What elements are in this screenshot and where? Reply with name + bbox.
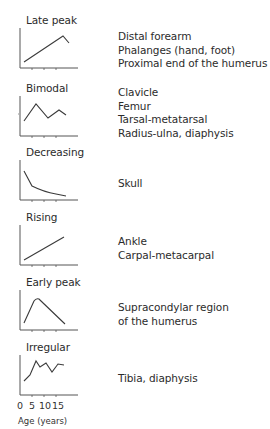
mini-chart-decreasing <box>14 158 84 206</box>
mini-chart-rising <box>14 223 84 271</box>
mini-chart-bimodal <box>14 94 84 142</box>
site-label: Tarsal-metatarsal <box>118 113 234 127</box>
panel-title: Late peak <box>26 14 77 26</box>
site-list: Supracondylar region of the humerus <box>118 301 229 328</box>
site-label: Clavicle <box>118 86 234 100</box>
x-tick: 10 <box>39 400 51 411</box>
site-label: Proximal end of the humerus <box>118 57 267 71</box>
panel-title: Bimodal <box>26 82 68 94</box>
site-list: Distal forearm Phalanges (hand, foot) Pr… <box>118 30 267 71</box>
site-label: Carpal-metacarpal <box>118 249 214 263</box>
mini-chart-early-peak <box>14 288 84 336</box>
site-list: Skull <box>118 177 142 191</box>
trend-line <box>24 361 64 381</box>
trend-line <box>24 171 66 196</box>
mini-chart-irregular <box>14 353 84 401</box>
x-tick: 0 <box>17 400 23 411</box>
panel-title: Decreasing <box>26 146 84 158</box>
x-tick: 5 <box>29 400 35 411</box>
site-label: Ankle <box>118 235 214 249</box>
panel-decreasing: Decreasing Skull <box>0 146 270 212</box>
panel-title: Rising <box>26 211 57 223</box>
panel-title: Early peak <box>26 276 81 288</box>
site-label: Tibia, diaphysis <box>118 372 198 386</box>
trend-line <box>24 237 64 260</box>
site-label: Distal forearm <box>118 30 267 44</box>
trend-line <box>24 299 65 324</box>
panel-early-peak: Early peak Supracondylar region of the h… <box>0 276 270 342</box>
mini-chart-late-peak <box>14 26 84 74</box>
trend-line <box>24 36 69 62</box>
site-list: Ankle Carpal-metacarpal <box>118 235 214 262</box>
site-label: Skull <box>118 177 142 191</box>
x-tick: 15 <box>52 400 64 411</box>
panel-bimodal: Bimodal Clavicle Femur Tarsal-metatarsal… <box>0 82 270 148</box>
site-label: Supracondylar region <box>118 301 229 315</box>
panel-title: Irregular <box>26 341 70 353</box>
site-label: Femur <box>118 100 234 114</box>
site-label: Phalanges (hand, foot) <box>118 44 267 58</box>
trend-line <box>24 104 66 121</box>
site-label: Radius-ulna, diaphysis <box>118 127 234 141</box>
panel-rising: Rising Ankle Carpal-metacarpal <box>0 211 270 277</box>
x-axis-ticks: 0 5 10 15 <box>14 400 84 412</box>
panel-irregular: Irregular Tibia, diaphysis <box>0 341 270 407</box>
panel-late-peak: Late peak Distal forearm Phalanges (hand… <box>0 14 270 80</box>
x-axis-label: Age (years) <box>18 416 67 426</box>
site-list: Tibia, diaphysis <box>118 372 198 386</box>
site-label: of the humerus <box>118 315 229 329</box>
site-list: Clavicle Femur Tarsal-metatarsal Radius-… <box>118 86 234 140</box>
